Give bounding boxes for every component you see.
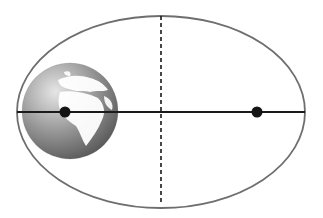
left-focus-point [60,107,71,118]
right-focus-point [252,107,263,118]
orbit-diagram-svg [0,0,323,218]
orbit-diagram [0,0,323,218]
